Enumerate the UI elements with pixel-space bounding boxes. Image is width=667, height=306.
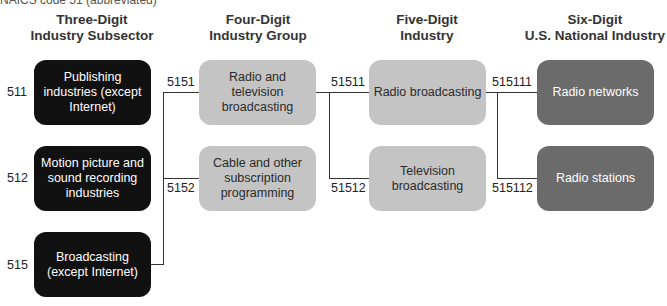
column-header-four-digit: Four-Digit Industry Group <box>183 12 333 44</box>
column-header-line2: Industry Subsector <box>17 28 167 44</box>
connector-to-515112 <box>497 178 537 179</box>
subsector-label: Publishing industries (except Internet) <box>38 70 147 115</box>
national-industry-code: 515112 <box>492 181 533 195</box>
subsector-label: Motion picture and sound recording indus… <box>38 156 147 201</box>
connector-industries-vertical <box>329 92 330 179</box>
industry-box-51511: Radio broadcasting <box>369 60 486 125</box>
group-code: 5151 <box>167 75 195 89</box>
column-header-line1: Five-Digit <box>352 12 502 28</box>
industry-code: 51512 <box>331 181 366 195</box>
subsector-label: Broadcasting (except Internet) <box>38 250 147 280</box>
column-header-three-digit: Three-Digit Industry Subsector <box>17 12 167 44</box>
subsector-code: 511 <box>7 85 27 99</box>
national-industry-label: Radio stations <box>556 171 635 186</box>
industry-code: 51511 <box>331 75 365 89</box>
group-label: Cable and other subscription programming <box>203 156 312 201</box>
column-header-line1: Four-Digit <box>183 12 333 28</box>
connector-51511-out <box>486 92 537 93</box>
column-header-line1: Six-Digit <box>510 12 667 28</box>
connector-to-5151 <box>163 92 199 93</box>
connector-national-vertical <box>497 92 498 179</box>
national-industry-box-515112: Radio stations <box>537 146 654 211</box>
subsector-code: 512 <box>7 171 28 185</box>
national-industry-label: Radio networks <box>552 85 638 100</box>
industry-box-51512: Television broadcasting <box>369 146 486 211</box>
column-header-line2: Industry Group <box>183 28 333 44</box>
group-box-5152: Cable and other subscription programming <box>199 146 316 211</box>
subsector-box-512: Motion picture and sound recording indus… <box>34 146 151 211</box>
connector-to-51512 <box>329 178 369 179</box>
national-industry-code: 515111 <box>492 75 532 89</box>
group-code: 5152 <box>167 181 195 195</box>
diagram-caption: NAICS code 51 (abbreviated) <box>0 0 157 7</box>
industry-label: Television broadcasting <box>373 164 482 194</box>
column-header-line2: Industry <box>352 28 502 44</box>
subsector-box-515: Broadcasting (except Internet) <box>34 232 151 297</box>
subsector-code: 515 <box>7 258 28 272</box>
column-header-five-digit: Five-Digit Industry <box>352 12 502 44</box>
column-header-six-digit: Six-Digit U.S. National Industry <box>510 12 667 44</box>
column-header-line1: Three-Digit <box>17 12 167 28</box>
industry-label: Radio broadcasting <box>374 85 482 100</box>
subsector-box-511: Publishing industries (except Internet) <box>34 60 151 125</box>
group-label: Radio and television broadcasting <box>203 70 312 115</box>
connector-5151-out <box>316 92 369 93</box>
group-box-5151: Radio and television broadcasting <box>199 60 316 125</box>
column-header-line2: U.S. National Industry <box>510 28 667 44</box>
connector-to-5152 <box>163 178 199 179</box>
national-industry-box-515111: Radio networks <box>537 60 654 125</box>
